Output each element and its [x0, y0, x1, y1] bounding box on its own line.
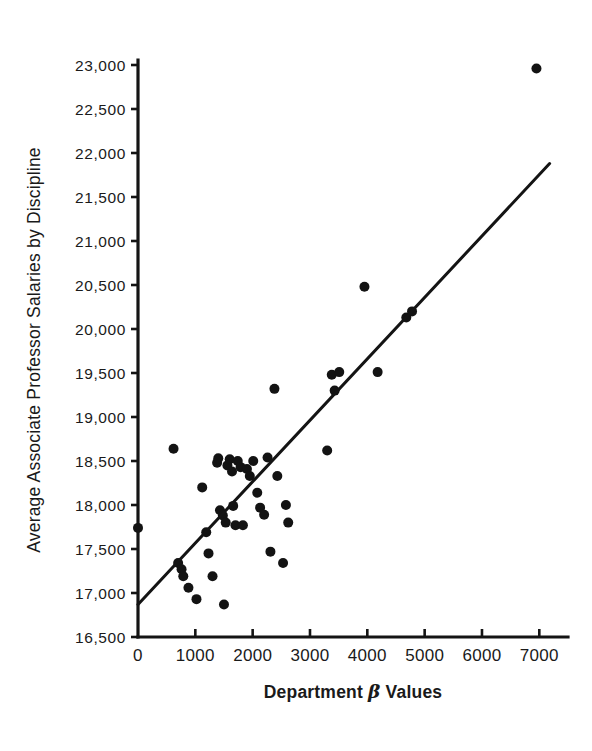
- y-tick-label: 17,500: [75, 541, 126, 558]
- data-point: [169, 444, 179, 454]
- data-point: [178, 571, 188, 581]
- data-point: [373, 367, 383, 377]
- data-point: [283, 518, 293, 528]
- y-tick-label: 17,000: [75, 585, 126, 602]
- y-tick-labels: 16,50017,00017,50018,00018,50019,00019,5…: [75, 57, 126, 646]
- data-point: [272, 471, 282, 481]
- data-point: [227, 467, 237, 477]
- data-point: [334, 367, 344, 377]
- data-point: [183, 583, 193, 593]
- x-tick-label: 6000: [462, 646, 501, 665]
- x-axis-group: 01000200030004000500060007000: [133, 629, 568, 665]
- data-point: [531, 64, 541, 74]
- regression-line: [138, 164, 550, 605]
- data-point: [269, 384, 279, 394]
- x-tick-label: 1000: [176, 646, 215, 665]
- y-tick-label: 22,500: [75, 101, 126, 118]
- y-tick-label: 20,500: [75, 277, 126, 294]
- y-tick-label: 19,500: [75, 365, 126, 382]
- y-tick-label: 18,500: [75, 453, 126, 470]
- x-tick-label: 7000: [520, 646, 559, 665]
- data-point: [248, 456, 258, 466]
- data-point: [208, 571, 218, 581]
- x-tick-label: 2000: [233, 646, 272, 665]
- data-point: [204, 548, 214, 558]
- x-tick-labels: 01000200030004000500060007000: [133, 646, 559, 665]
- data-point: [219, 599, 229, 609]
- y-tick-label: 21,500: [75, 189, 126, 206]
- x-tick-label: 4000: [348, 646, 387, 665]
- y-tick-label: 21,000: [75, 233, 126, 250]
- data-point: [278, 558, 288, 568]
- data-point: [281, 500, 291, 510]
- y-axis-title: Average Associate Professor Salaries by …: [24, 147, 44, 553]
- data-point: [265, 547, 275, 557]
- x-tick-label: 3000: [290, 646, 329, 665]
- y-tick-label: 22,000: [75, 145, 126, 162]
- data-point: [252, 488, 262, 498]
- y-axis-group: 16,50017,00017,50018,00018,50019,00019,5…: [75, 57, 138, 646]
- data-point: [322, 445, 332, 455]
- data-point: [191, 594, 201, 604]
- y-tick-label: 16,500: [75, 629, 126, 646]
- x-tick-label: 5000: [405, 646, 444, 665]
- y-tick-label: 20,000: [75, 321, 126, 338]
- data-point: [133, 523, 143, 533]
- data-point: [359, 282, 369, 292]
- x-tick-label: 0: [133, 646, 143, 665]
- data-point: [213, 453, 223, 463]
- data-point: [238, 520, 248, 530]
- x-axis-title: Department β Values: [264, 681, 443, 702]
- y-tick-label: 23,000: [75, 57, 126, 74]
- data-point: [221, 518, 231, 528]
- scatter-plot-svg: 16,50017,00017,50018,00018,50019,00019,5…: [0, 0, 592, 751]
- data-point: [259, 510, 269, 520]
- y-tick-label: 18,000: [75, 497, 126, 514]
- y-tick-label: 19,000: [75, 409, 126, 426]
- figure-container: 16,50017,00017,50018,00018,50019,00019,5…: [0, 0, 592, 751]
- data-point: [197, 482, 207, 492]
- data-point-group: [133, 64, 541, 610]
